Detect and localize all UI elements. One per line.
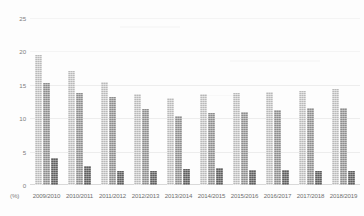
x-axis-tick-label: 2018/2019 — [330, 192, 357, 199]
bar — [216, 168, 223, 185]
x-axis-tick-label: 2016/2017 — [264, 192, 291, 199]
bar — [117, 171, 124, 185]
bar-group — [266, 18, 289, 185]
x-axis-tick-label: 2009/2010 — [33, 192, 60, 199]
bar — [101, 82, 108, 185]
bar — [142, 109, 149, 185]
x-axis-tick-label: 2014/2015 — [198, 192, 225, 199]
bar — [35, 55, 42, 185]
y-axis-tick-label: 20 — [19, 48, 26, 55]
bar-group — [299, 18, 322, 185]
bar — [200, 94, 207, 185]
bar — [233, 93, 240, 185]
x-axis: 2009/20102010/20112011/20122012/20132013… — [0, 192, 364, 208]
bar — [332, 89, 339, 185]
x-axis-tick-label: 2017/2018 — [297, 192, 324, 199]
bar — [68, 71, 75, 185]
bar-group — [167, 18, 190, 185]
y-axis-tick-label: 25 — [19, 15, 26, 22]
bar-group — [332, 18, 355, 185]
bar — [150, 171, 157, 185]
x-axis-tick-label: 2010/2011 — [66, 192, 93, 199]
x-axis-tick-label: 2013/2014 — [165, 192, 192, 199]
y-axis: 0510152025 — [0, 0, 30, 216]
bar-group — [134, 18, 157, 185]
bar — [249, 170, 256, 185]
bar — [348, 171, 355, 185]
bar-group — [233, 18, 256, 185]
bar-group — [200, 18, 223, 185]
bar — [175, 116, 182, 185]
bar — [84, 166, 91, 185]
bar — [241, 112, 248, 185]
y-axis-tick-label: 5 — [23, 148, 26, 155]
bar — [307, 108, 314, 185]
bar — [282, 170, 289, 185]
bar-chart: 0510152025 2009/20102010/20112011/201220… — [0, 0, 364, 216]
bar-group — [101, 18, 124, 185]
bar-group — [35, 18, 58, 185]
x-axis-tick-label: 2015/2016 — [231, 192, 258, 199]
y-axis-tick-label: 15 — [19, 81, 26, 88]
plot-area — [30, 18, 360, 185]
bar — [340, 108, 347, 185]
bar — [51, 158, 58, 185]
x-axis-tick-label: 2012/2013 — [132, 192, 159, 199]
y-axis-tick-label: 0 — [23, 182, 26, 189]
bar — [315, 171, 322, 185]
bar — [274, 110, 281, 185]
bar — [167, 98, 174, 186]
bar — [183, 169, 190, 185]
bar — [299, 91, 306, 185]
bar — [134, 94, 141, 185]
x-axis-tick-label: 2011/2012 — [99, 192, 126, 199]
y-axis-unit-label: (%) — [10, 192, 19, 199]
bar — [109, 97, 116, 185]
bar — [208, 113, 215, 185]
bar — [43, 83, 50, 185]
bar — [76, 93, 83, 185]
y-axis-tick-label: 10 — [19, 115, 26, 122]
bar — [266, 92, 273, 185]
bar-group — [68, 18, 91, 185]
